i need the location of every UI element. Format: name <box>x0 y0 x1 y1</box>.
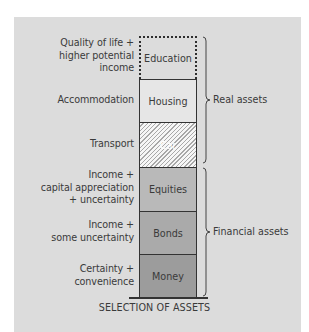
financial-assets-brace-icon <box>202 167 210 297</box>
bonds-block: Bonds <box>139 211 197 254</box>
baseline <box>129 297 208 299</box>
equities-label: Equities <box>149 184 187 195</box>
bonds-description: Income + some uncertainty <box>51 219 134 244</box>
housing-block: Housing <box>139 79 197 122</box>
equities-block: Equities <box>139 167 197 211</box>
real-assets-label: Real assets <box>213 94 267 105</box>
education-label: Education <box>144 53 192 64</box>
car-label: Car <box>160 140 177 151</box>
housing-label: Housing <box>149 96 188 107</box>
money-label: Money <box>152 271 184 282</box>
equities-description: Income + capital appreciation + uncertai… <box>41 169 134 207</box>
real-assets-brace-icon <box>202 36 210 164</box>
money-description: Certainty + convenience <box>74 263 134 288</box>
housing-description: Accommodation <box>58 94 134 107</box>
car-description: Transport <box>90 138 134 151</box>
financial-assets-label: Financial assets <box>213 226 289 237</box>
education-block: Education <box>139 36 197 79</box>
car-block: Car <box>139 122 197 167</box>
money-block: Money <box>139 254 197 297</box>
bonds-label: Bonds <box>153 228 183 239</box>
education-description: Quality of life + higher potential incom… <box>59 37 134 75</box>
diagram-title: SELECTION OF ASSETS <box>0 302 309 313</box>
